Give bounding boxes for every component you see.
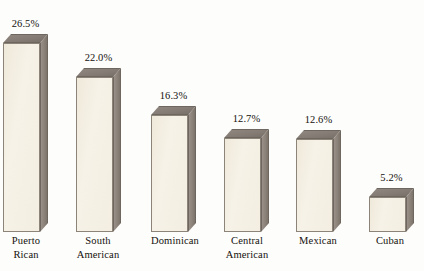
category-label-cuban: Cuban [361,234,419,248]
bar-value-label: 22.0% [76,52,121,63]
category-label-line: American [62,248,134,262]
bar-front-face [296,139,333,232]
bar-value-label: 5.2% [369,172,414,183]
bar-group-central-american[interactable]: 12.7% [224,113,269,232]
bar-value-label: 16.3% [151,90,196,101]
bar-value-label: 26.5% [3,18,48,29]
category-label-line: Mexican [286,234,350,248]
category-label-line: Puerto [0,234,52,248]
bar-front-face [369,197,406,232]
category-label-central-american: Central American [211,234,283,261]
bar-group-dominican[interactable]: 16.3% [151,90,196,232]
category-label-mexican: Mexican [286,234,350,248]
category-label-puerto-rican: Puerto Rican [0,234,52,261]
bar-prism [3,34,48,232]
category-label-dominican: Dominican [139,234,211,248]
category-label-line: Rican [0,248,52,262]
bar-group-mexican[interactable]: 12.6% [296,114,341,232]
plot-area: 26.5% 22.0% 16.3% [0,0,424,232]
bar-side-face [261,129,269,232]
bar-front-face [3,43,40,232]
bar-side-face [188,106,196,232]
bar-group-south-american[interactable]: 22.0% [76,52,121,232]
bar-chart: 26.5% 22.0% 16.3% [0,0,424,271]
bar-prism [369,188,414,232]
bar-value-label: 12.7% [224,113,269,124]
category-axis: Puerto Rican South American Dominican Ce… [0,232,424,271]
bar-front-face [224,138,261,232]
category-label-line: South [62,234,134,248]
bar-prism [151,106,196,232]
bar-front-face [76,77,113,232]
category-label-line: American [211,248,283,262]
bar-prism [296,130,341,232]
bar-group-cuban[interactable]: 5.2% [369,172,414,232]
bar-group-puerto-rican[interactable]: 26.5% [3,18,48,232]
bar-side-face [333,130,341,232]
category-label-line: Cuban [361,234,419,248]
category-label-line: Central [211,234,283,248]
bar-prism [76,68,121,232]
bar-side-face [40,34,48,232]
bar-value-label: 12.6% [296,114,341,125]
category-label-south-american: South American [62,234,134,261]
bar-side-face [113,68,121,232]
bar-prism [224,129,269,232]
category-label-line: Dominican [139,234,211,248]
bar-front-face [151,115,188,232]
